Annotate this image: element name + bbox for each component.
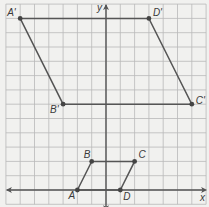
original-figure-vertex-d <box>118 188 123 193</box>
point-label-d-prime: D' <box>153 7 163 18</box>
point-label-d: D <box>123 191 130 202</box>
image-figure-vertex-dprime <box>147 16 152 21</box>
point-label-b-prime: B' <box>50 104 60 115</box>
image-figure-vertex-cprime <box>189 102 194 107</box>
point-label-b: B <box>84 149 91 160</box>
coordinate-plane: xyA'B'C'D'ABCD <box>0 0 209 207</box>
point-label-c: C <box>139 149 147 160</box>
point-label-c-prime: C' <box>196 95 206 106</box>
y-axis-label: y <box>96 2 103 13</box>
point-label-a-prime: A' <box>6 7 17 18</box>
image-figure-vertex-bprime <box>61 102 66 107</box>
image-figure-vertex-aprime <box>18 16 23 21</box>
x-axis-label: x <box>199 192 206 203</box>
original-figure-vertex-a <box>75 188 80 193</box>
original-figure-vertex-c <box>132 159 137 164</box>
point-label-a: A <box>67 190 75 201</box>
